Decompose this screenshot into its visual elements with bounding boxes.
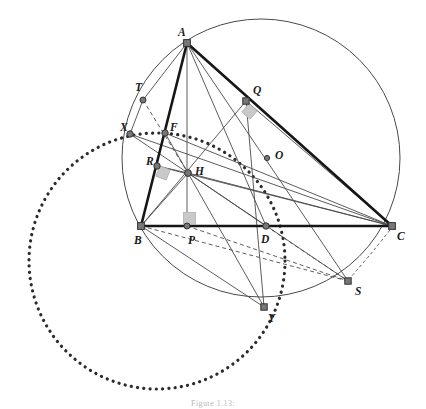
label-S: S <box>355 285 361 297</box>
label-C: C <box>397 230 405 242</box>
point-O <box>264 155 269 160</box>
thin-segments-layer <box>130 43 392 307</box>
label-X: X <box>119 121 128 133</box>
point-B <box>138 223 145 230</box>
segment-CF <box>165 133 392 226</box>
point-Y <box>261 304 267 310</box>
point-Q <box>243 98 249 104</box>
point-A <box>184 40 191 47</box>
label-A: A <box>177 26 186 38</box>
cevian-AS <box>187 43 348 281</box>
label-B: B <box>133 234 142 246</box>
geometry-figure: ABCDFHOPQRSTXY Figure 1.13: <box>0 0 426 409</box>
segment-CX <box>130 134 392 226</box>
point-C <box>389 223 396 230</box>
right-angle-at-P <box>184 213 196 225</box>
label-D: D <box>260 233 270 245</box>
geometry-canvas: ABCDFHOPQRSTXY <box>0 0 426 409</box>
label-R: R <box>145 155 154 167</box>
point-S <box>345 278 351 284</box>
figure-caption: Figure 1.13: <box>0 399 426 408</box>
right-angle-at-Q <box>242 104 258 120</box>
label-P: P <box>188 234 196 246</box>
point-P <box>184 223 190 229</box>
label-T: T <box>135 81 143 93</box>
point-X <box>127 131 133 137</box>
point-D <box>263 223 269 229</box>
point-T <box>140 97 146 103</box>
label-Y: Y <box>268 312 276 324</box>
point-F <box>162 130 168 136</box>
label-H: H <box>194 165 205 177</box>
segment-BY <box>141 226 264 307</box>
circles-layer <box>29 19 400 389</box>
dotted-circle-XFY <box>29 133 285 389</box>
label-Q: Q <box>253 84 261 96</box>
segment-OQ-ray <box>246 101 264 307</box>
label-O: O <box>275 149 283 161</box>
segment-HY <box>188 173 264 307</box>
dashed-arc-CS <box>349 230 390 279</box>
label-F: F <box>169 121 178 133</box>
point-H <box>185 170 192 177</box>
arcs-layer <box>349 230 390 279</box>
circumcircle-ABC <box>122 19 400 297</box>
point-R <box>154 163 160 169</box>
